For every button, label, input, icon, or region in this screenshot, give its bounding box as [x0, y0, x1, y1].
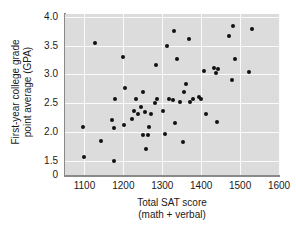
data-point: [173, 121, 177, 125]
x-tick-label-1200: 1200: [103, 180, 143, 191]
x-axis-title-sub: (math + verbal): [65, 209, 279, 221]
data-point: [187, 37, 191, 41]
data-point: [161, 109, 165, 113]
data-point: [231, 24, 235, 28]
data-point: [123, 86, 127, 90]
gridline-x-1600: [279, 14, 280, 175]
gridline-x-1500: [240, 14, 241, 175]
y-axis-title: First-year college grade point average (…: [10, 2, 34, 182]
data-point: [199, 97, 203, 101]
scatter-plot-figure: 4.03.53.02.52.01.50 11001200130014001500…: [0, 0, 296, 237]
data-point: [146, 133, 150, 137]
gridline-y-2.5: [65, 103, 279, 104]
gridline-x-1200: [123, 14, 124, 175]
data-point: [182, 90, 186, 94]
data-point: [184, 82, 188, 86]
x-axis-title-main: Total SAT score: [65, 197, 279, 209]
data-point: [144, 147, 148, 151]
gridline-y-4.0: [65, 17, 279, 18]
data-point: [171, 98, 175, 102]
data-point: [165, 44, 169, 48]
data-point: [122, 123, 126, 127]
data-point: [153, 101, 157, 105]
data-point: [134, 97, 138, 101]
data-point: [141, 90, 145, 94]
gridline-y-1.5: [65, 161, 279, 162]
data-point: [113, 97, 117, 101]
x-axis-title: Total SAT score (math + verbal): [65, 197, 279, 221]
data-point: [82, 155, 86, 159]
x-tick-label-1400: 1400: [181, 180, 221, 191]
data-point: [233, 57, 237, 61]
data-point: [227, 34, 231, 38]
data-point: [163, 132, 167, 136]
gridline-y-3.0: [65, 74, 279, 75]
x-axis-line: [64, 175, 280, 177]
data-point: [112, 159, 116, 163]
data-point: [154, 63, 158, 67]
data-point: [112, 126, 116, 130]
plot-area: [65, 14, 279, 175]
data-point: [250, 27, 254, 31]
data-point: [204, 112, 208, 116]
gridline-x-1300: [162, 14, 163, 175]
data-point: [181, 140, 185, 144]
gridline-x-1100: [84, 14, 85, 175]
data-point: [143, 110, 147, 114]
data-point: [99, 139, 103, 143]
gridline-y-3.5: [65, 46, 279, 47]
data-point: [247, 70, 251, 74]
data-point: [121, 55, 125, 59]
data-point: [216, 67, 220, 71]
x-tick-label-1300: 1300: [142, 180, 182, 191]
x-tick-label-1500: 1500: [220, 180, 260, 191]
data-point: [136, 112, 140, 116]
data-point: [149, 112, 153, 116]
x-tick-label-1600: 1600: [259, 180, 296, 191]
data-point: [178, 100, 182, 104]
data-point: [202, 69, 206, 73]
data-point: [147, 125, 151, 129]
y-axis-title-line1: First-year college grade: [10, 2, 22, 182]
data-point: [155, 97, 159, 101]
data-point: [191, 97, 195, 101]
gridline-x-1400: [201, 14, 202, 175]
data-point: [139, 105, 143, 109]
data-point: [93, 41, 97, 45]
data-point: [230, 78, 234, 82]
x-tick-label-1100: 1100: [64, 180, 104, 191]
data-point: [212, 66, 216, 70]
data-point: [175, 57, 179, 61]
data-point: [130, 117, 134, 121]
data-point: [110, 118, 114, 122]
data-point: [172, 29, 176, 33]
gridline-y-2.0: [65, 132, 279, 133]
data-point: [141, 133, 145, 137]
data-point: [215, 120, 219, 124]
y-axis-title-line2: point average (GPA): [22, 2, 34, 182]
